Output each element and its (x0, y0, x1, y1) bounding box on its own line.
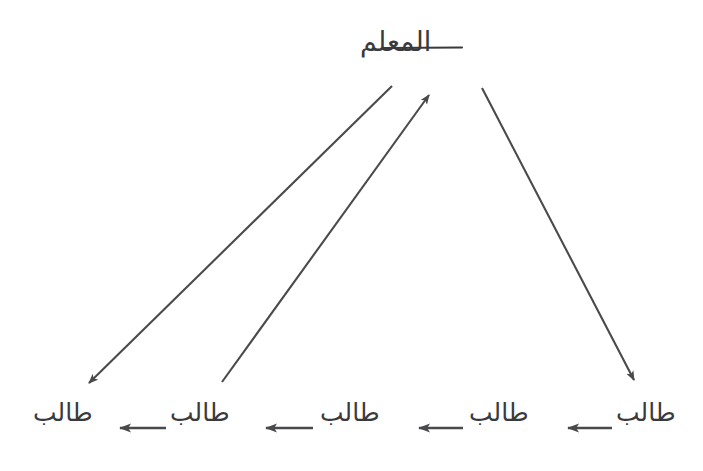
edge-teacher-to-rightmost-student (482, 88, 634, 380)
edge-student-to-teacher (222, 95, 429, 382)
node-student-4: طالب (170, 400, 230, 425)
node-student-1: طالب (616, 400, 676, 425)
node-student-3: طالب (320, 400, 380, 425)
diagram-canvas: المعلم طالب طالب طالب طالب طالب (0, 0, 703, 471)
node-student-5: طالب (33, 400, 93, 425)
node-student-2: طالب (469, 400, 529, 425)
edge-teacher-to-leftmost-student (89, 86, 392, 383)
node-teacher: المعلم (360, 28, 431, 55)
